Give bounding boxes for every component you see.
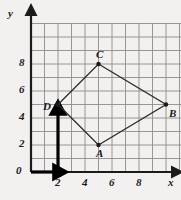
coordinate-plane-svg [0,0,181,200]
vertex-dot-c [96,62,100,66]
vertex-label-d: D [43,101,51,112]
y-tick-4: 4 [19,111,25,122]
y-axis-label: y [8,8,13,19]
vertex-label-c: C [96,49,103,60]
x-axis-label: x [168,177,174,188]
origin-label: 0 [16,165,22,176]
vertex-label-b: B [169,108,176,119]
vertex-label-a: A [96,148,103,159]
y-tick-8: 8 [19,57,25,68]
x-tick-2: 2 [55,177,61,188]
x-tick-6: 6 [109,177,115,188]
vertex-dot-b [164,102,168,106]
x-tick-4: 4 [82,177,88,188]
y-tick-2: 2 [19,138,25,149]
x-tick-8: 8 [136,177,142,188]
figure-canvas: y x 0 2 4 6 8 2 4 6 8 A B C D [0,0,181,200]
y-tick-6: 6 [19,84,25,95]
grid-lines [31,23,181,172]
vertex-dot-d [56,102,60,106]
